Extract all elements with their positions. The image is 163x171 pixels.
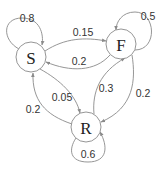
label-r-to-f: 0.3 [99, 82, 114, 94]
label-r-to-s: 0.2 [26, 103, 41, 115]
label-f-to-r: 0.2 [136, 87, 151, 99]
node-s-label: S [26, 49, 35, 68]
label-s-to-r: 0.05 [52, 91, 73, 103]
label-f-to-f: 0.5 [141, 10, 156, 22]
node-r-label: R [80, 119, 92, 138]
label-r-to-r: 0.6 [81, 148, 96, 160]
node-f: F [106, 29, 136, 59]
node-s: S [16, 42, 46, 72]
node-f-label: F [116, 36, 125, 55]
label-s-to-f: 0.15 [73, 26, 94, 38]
label-f-to-s: 0.2 [72, 55, 87, 67]
state-diagram: S F R 0.8 0.15 0.2 0.5 0.05 0.2 0.3 0.2 … [0, 0, 163, 171]
edge-s-to-f [45, 39, 106, 51]
node-r: R [71, 112, 101, 142]
label-s-to-s: 0.8 [20, 12, 35, 24]
